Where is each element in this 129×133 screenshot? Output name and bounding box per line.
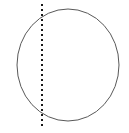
background-rect — [0, 0, 129, 133]
figure-canvas — [0, 0, 129, 133]
circle-chord-diagram — [0, 0, 129, 133]
